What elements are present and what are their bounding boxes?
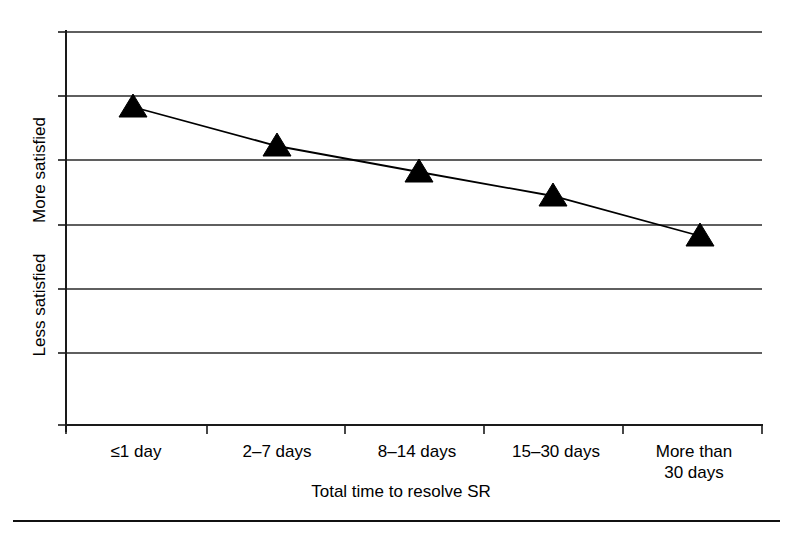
x-axis-title: Total time to resolve SR [311,482,491,501]
y-axis-label-more-satisfied: More satisfied [30,117,49,223]
satisfaction-line-chart: More satisfied Less satisfied ≤1 day 2–7… [0,0,790,537]
x-axis-ticks [66,425,762,434]
x-tick-label-1: 2–7 days [243,442,312,461]
y-axis-ticks [58,32,66,425]
x-tick-label-2: 8–14 days [378,442,456,461]
x-tick-label-4-line1: More than [656,442,733,461]
x-tick-label-0: ≤1 day [111,442,162,461]
x-tick-label-3: 15–30 days [512,442,600,461]
y-axis-label-less-satisfied: Less satisfied [30,254,49,357]
x-tick-label-4-line2: 30 days [664,463,724,482]
plot-area-background [66,32,762,425]
figure-container: More satisfied Less satisfied ≤1 day 2–7… [0,0,790,537]
